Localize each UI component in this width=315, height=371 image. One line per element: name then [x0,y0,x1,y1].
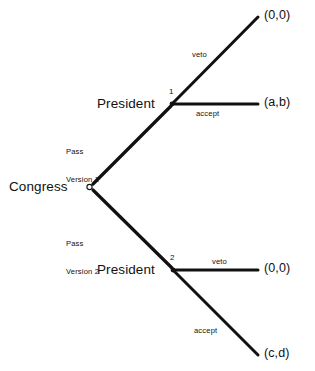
action-label-veto-lower: veto [212,258,227,267]
edge-president-1-veto [172,17,258,104]
action-label-pass-version-2-line-2: Version 2 [66,267,99,276]
edge-congress-to-president-2 [93,190,172,268]
node-index-1: 1 [169,88,173,97]
payoff-lower-accept: (c,d) [264,346,290,360]
node-label-president-2: President [97,262,155,277]
node-label-president-1: President [97,96,155,111]
action-label-pass-version-1-line-2: Version 1 [66,175,99,184]
node-index-2: 2 [170,254,174,263]
game-tree-diagram: Congress President President 1 2 Pass Ve… [0,0,315,371]
action-label-veto-upper: veto [192,51,207,60]
payoff-upper-accept: (a,b) [264,95,290,109]
edge-congress-to-president-1 [93,106,171,184]
action-label-pass-version-2-line-1: Pass [66,239,99,248]
node-label-congress: Congress [9,179,68,194]
action-label-accept-lower: accept [194,327,217,336]
action-label-accept-upper: accept [196,110,219,119]
node-president-1 [170,102,175,107]
payoff-upper-veto: (0,0) [264,8,290,22]
edge-president-2-accept [173,270,258,355]
node-president-2 [171,268,176,273]
action-label-pass-version-2: Pass Version 2 [66,220,99,296]
action-label-pass-version-1-line-1: Pass [66,147,99,156]
payoff-lower-veto: (0,0) [264,261,290,275]
action-label-pass-version-1: Pass Version 1 [66,128,99,204]
